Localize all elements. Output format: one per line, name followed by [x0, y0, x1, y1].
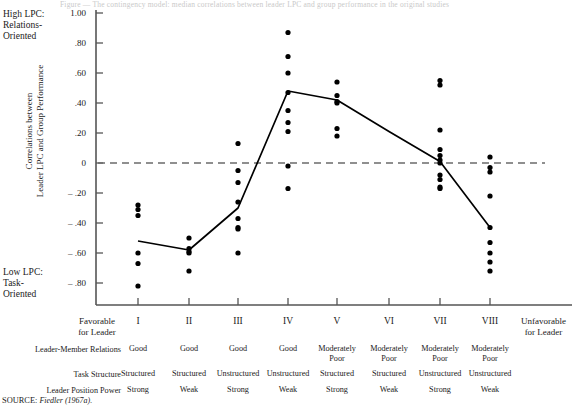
high-lpc-line-2: Relations- [3, 20, 44, 31]
low-lpc-label: Low LPC: Task- Oriented [3, 267, 43, 301]
x-category-label-II: II [164, 316, 214, 326]
y-tick-label: – .20 [48, 189, 86, 198]
axis-lines [96, 10, 572, 305]
high-lpc-line-1: High LPC: [3, 9, 44, 20]
unfavorable-for-leader-label: Unfavorable for Leader [512, 316, 575, 337]
y-tick-label: – .60 [48, 249, 86, 258]
y-tick-label: .40 [48, 99, 86, 108]
x-category-label-VIII: VIII [465, 316, 515, 326]
low-lpc-line-1: Low LPC: [3, 267, 43, 278]
source-note: SOURCE: Fiedler (1967a). [2, 396, 92, 405]
favorable-line-1: Favorable [58, 316, 136, 327]
favorable-for-leader-label: Favorable for Leader [58, 316, 136, 337]
x-category-label-IV: IV [263, 316, 313, 326]
low-lpc-line-3: Oriented [3, 289, 43, 300]
unfavorable-line-2: for Leader [512, 327, 575, 338]
x-axis-ticks [138, 298, 490, 305]
row-label-task-structure: Task Structure [6, 370, 121, 379]
y-axis-ticks [96, 13, 103, 283]
low-lpc-line-2: Task- [3, 278, 43, 289]
y-tick-label: .60 [48, 69, 86, 78]
cell-position-power-VIII: Weak [457, 385, 523, 395]
x-category-label-V: V [312, 316, 362, 326]
cell-relations-VIII: ModeratelyPoor [457, 344, 523, 363]
row-label-leader-position-power: Leader Position Power [6, 386, 121, 395]
y-tick-label: 1.00 [48, 9, 86, 18]
row-label-leader-member-relations: Leader-Member Relations [6, 345, 121, 354]
y-axis-title-line-2: Leader LPC and Group Performance [35, 36, 46, 226]
y-tick-label: – .40 [48, 219, 86, 228]
favorable-line-2: for Leader [58, 327, 136, 338]
x-category-label-VI: VI [364, 316, 414, 326]
y-tick-label: 0 [48, 159, 86, 168]
source-reference: Fiedler (1967a). [39, 396, 92, 405]
y-tick-label: – .80 [48, 279, 86, 288]
y-axis-title-line-1: Correlations between [24, 93, 34, 170]
x-category-label-III: III [213, 316, 263, 326]
median-correlation-line [138, 91, 490, 250]
figure-top-caption: Figure — The contingency model: median c… [60, 0, 575, 9]
cell-task-structure-VIII: Unstructured [457, 369, 523, 379]
unfavorable-line-1: Unfavorable [512, 316, 575, 327]
x-category-label-VII: VII [415, 316, 465, 326]
y-tick-label: .20 [48, 129, 86, 138]
y-axis-title: Correlations between Leader LPC and Grou… [24, 36, 46, 226]
source-prefix: SOURCE: [2, 396, 37, 405]
y-tick-label: .80 [48, 39, 86, 48]
